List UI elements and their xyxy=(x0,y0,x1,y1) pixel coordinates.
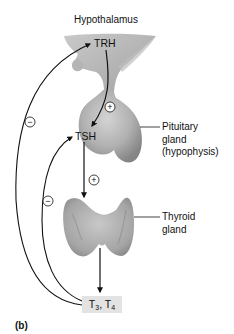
tsh-label: TSH xyxy=(75,130,96,142)
inhibit-sign-outer: − xyxy=(25,117,35,127)
diagram-canvas: + + − − xyxy=(0,0,234,334)
inhibit-sign-inner: − xyxy=(43,196,53,206)
arrow-t3t4-inhibit-trh xyxy=(16,44,90,305)
thyroid-axis-diagram: + + − − Hypothalamus TRH TSH Pituitary g… xyxy=(0,0,234,334)
thyroid-label: Thyroid gland xyxy=(162,211,222,236)
svg-text:+: + xyxy=(107,102,112,112)
svg-text:−: − xyxy=(45,196,50,206)
pituitary-label: Pituitary gland (hypophysis) xyxy=(162,121,232,159)
pituitary-label-line-3: (hypophysis) xyxy=(162,146,232,159)
thyroid-shape xyxy=(63,198,134,257)
panel-label: (b) xyxy=(15,320,28,332)
hypothalamus-label: Hypothalamus xyxy=(74,14,138,26)
thyroid-label-line-1: Thyroid xyxy=(162,211,222,224)
stimulate-sign-tsh-thyroid: + xyxy=(89,175,99,185)
pituitary-label-line-2: gland xyxy=(162,134,232,147)
trh-label: TRH xyxy=(94,37,116,49)
pituitary-shape xyxy=(79,90,142,162)
svg-text:−: − xyxy=(27,117,32,127)
thyroid-label-line-2: gland xyxy=(162,224,222,237)
t4-subscript: 4 xyxy=(111,304,115,311)
svg-text:+: + xyxy=(91,175,96,185)
pituitary-label-line-1: Pituitary xyxy=(162,121,232,134)
t3-t4-box: T3, T4 xyxy=(82,296,122,313)
stimulate-sign-trh-tsh: + xyxy=(105,102,115,112)
